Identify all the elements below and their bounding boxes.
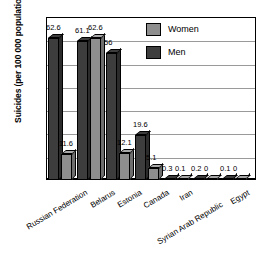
x-axis-label: Estonia — [116, 188, 144, 209]
bar-group: 61.162.6 — [77, 17, 104, 180]
x-axis-label: Belarus — [89, 188, 117, 210]
bar-value-label: 0.3 — [162, 165, 172, 173]
bar-men — [77, 41, 88, 180]
bar-men — [48, 38, 59, 180]
bar-value-label: 0.2 — [191, 165, 201, 173]
bar-value-label: 5.1 — [146, 154, 156, 162]
bar-women — [119, 153, 130, 180]
bar-front-face — [135, 135, 146, 180]
bar-value-label: 12.1 — [117, 139, 132, 147]
bar-front-face — [148, 168, 159, 180]
bar-value-label: 0.1 — [220, 165, 230, 173]
bar-value-label: 62.6 — [88, 24, 103, 32]
bar-front-face — [77, 41, 88, 180]
bar-women — [148, 168, 159, 180]
bar-front-face — [106, 53, 117, 180]
bar-front-face — [48, 38, 59, 180]
x-axis-label: Egypt — [228, 188, 250, 206]
x-axis-label: Russian Federation — [25, 188, 89, 231]
x-axis-label: Canada — [142, 188, 171, 210]
legend-label-women: Women — [168, 24, 199, 34]
bar-value-label: 0.1 — [175, 165, 185, 173]
legend-label-men: Men — [168, 47, 186, 57]
legend-swatch-women — [146, 23, 161, 36]
bar-value-label: 0 — [233, 165, 237, 173]
bar-top-face — [206, 175, 222, 179]
bar-top-face — [235, 175, 251, 179]
bar-group: 62.611.6 — [48, 17, 75, 180]
bar-group: 5612.1 — [106, 17, 133, 180]
legend-swatch-men — [146, 46, 161, 59]
y-axis-title: Suicides (per 100 000 population) — [13, 0, 23, 137]
legend-item-men: Men — [146, 43, 250, 61]
bar-top-face — [177, 175, 193, 179]
bar-value-label: 56 — [104, 39, 112, 47]
bar-value-label: 11.6 — [59, 140, 73, 148]
x-axis-label: Syrian Arab Republic — [156, 200, 225, 246]
bar-men — [135, 135, 146, 180]
bar-front-face — [119, 153, 130, 180]
bar-side-face — [101, 33, 105, 180]
chart-legend: Women Men — [146, 20, 250, 66]
bar-value-label: 19.6 — [133, 121, 148, 129]
bar-value-label: 62.6 — [46, 24, 61, 32]
bar-front-face — [61, 154, 72, 180]
legend-item-women: Women — [146, 20, 250, 38]
bar-men — [106, 53, 117, 180]
bar-value-label: 0 — [204, 165, 208, 173]
bar-front-face — [90, 38, 101, 180]
x-axis-label: Iran — [178, 188, 194, 203]
bar-women — [90, 38, 101, 180]
suicides-bar-chart: Suicides (per 100 000 population) 70 60 … — [0, 0, 272, 258]
bar-women — [61, 154, 72, 180]
x-axis-category-labels: Russian FederationBelarusEstoniaCanadaIr… — [0, 180, 272, 258]
